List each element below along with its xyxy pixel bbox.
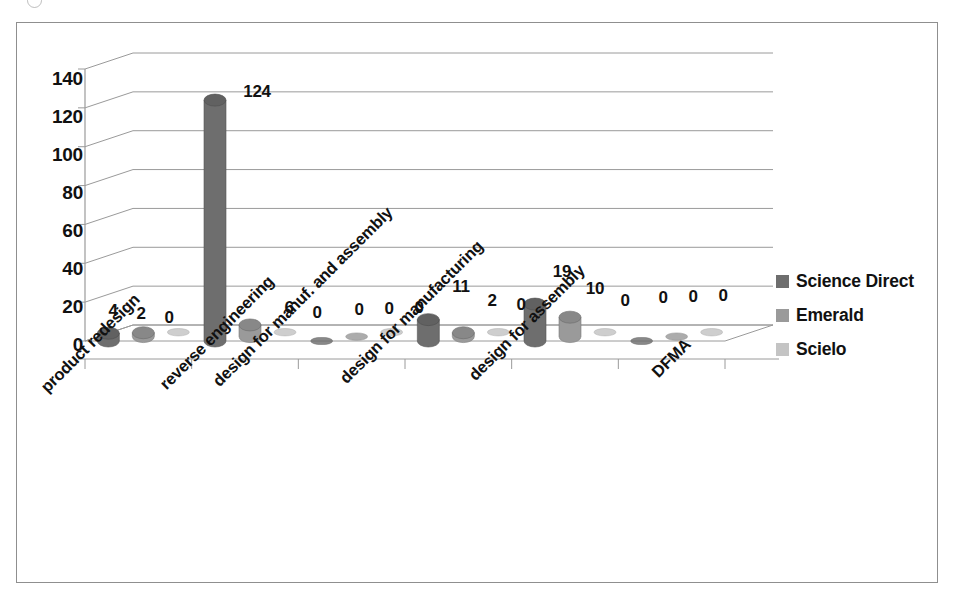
cylinder-top bbox=[452, 327, 474, 339]
cylinder-top bbox=[204, 94, 226, 106]
cylinder-body bbox=[204, 100, 226, 347]
value-label-g5-s0: 0 bbox=[646, 288, 680, 308]
bar-4-2[interactable] bbox=[594, 328, 616, 335]
legend-item-scielo[interactable]: Scielo bbox=[776, 332, 946, 366]
legend-label-scielo: Scielo bbox=[796, 339, 846, 360]
y-tick-20: 20 bbox=[31, 296, 83, 318]
y-tick-100: 100 bbox=[31, 144, 83, 166]
plot-area: 140 120 100 80 60 40 20 0 4 2 0 124 6 0 … bbox=[17, 23, 939, 584]
cylinder-zero bbox=[167, 328, 189, 335]
cylinder-zero bbox=[346, 333, 368, 340]
y-tick-40: 40 bbox=[31, 258, 83, 280]
cylinder-zero bbox=[701, 328, 723, 335]
bar-3-1[interactable] bbox=[452, 327, 474, 343]
value-label-g4-s2: 0 bbox=[608, 291, 642, 311]
y-tick-60: 60 bbox=[31, 220, 83, 242]
cylinder-top bbox=[559, 311, 581, 323]
gridline-60 bbox=[85, 208, 773, 224]
y-tick-80: 80 bbox=[31, 182, 83, 204]
legend-label-science-direct: Science Direct bbox=[796, 271, 914, 292]
gridline-100 bbox=[85, 131, 773, 147]
bar-0-1[interactable] bbox=[132, 327, 154, 343]
bar-2-1[interactable] bbox=[346, 333, 368, 340]
y-tick-120: 120 bbox=[31, 106, 83, 128]
value-label-g4-s1: 10 bbox=[578, 279, 612, 299]
value-label-g0-s2: 0 bbox=[152, 308, 186, 328]
legend-label-emerald: Emerald bbox=[796, 305, 864, 326]
gridline-40 bbox=[85, 247, 773, 263]
cylinder-top bbox=[132, 327, 154, 339]
legend-swatch-scielo bbox=[776, 343, 789, 356]
bar-2-0[interactable] bbox=[311, 337, 333, 344]
bar-0-2[interactable] bbox=[167, 328, 189, 335]
scan-artifact-glyph bbox=[27, 0, 42, 8]
y-tick-140: 140 bbox=[31, 68, 83, 90]
cylinder-zero bbox=[594, 328, 616, 335]
gridline-140 bbox=[85, 53, 773, 69]
gridline-120 bbox=[85, 92, 773, 108]
bar-1-0[interactable] bbox=[204, 94, 226, 347]
value-label-g5-s1: 0 bbox=[676, 287, 710, 307]
chart-frame: 140 120 100 80 60 40 20 0 4 2 0 124 6 0 … bbox=[16, 22, 938, 583]
bar-5-0[interactable] bbox=[631, 337, 653, 344]
bar-3-0[interactable] bbox=[417, 314, 439, 347]
bar-5-2[interactable] bbox=[701, 328, 723, 335]
cylinder-zero bbox=[311, 337, 333, 344]
gridline-80 bbox=[85, 170, 773, 186]
legend-swatch-emerald bbox=[776, 309, 789, 322]
chart-legend: Science Direct Emerald Scielo bbox=[776, 264, 946, 366]
value-label-g1-s0: 124 bbox=[240, 82, 274, 102]
legend-swatch-science-direct bbox=[776, 275, 789, 288]
legend-item-science-direct[interactable]: Science Direct bbox=[776, 264, 946, 298]
bar-4-1[interactable] bbox=[559, 311, 581, 342]
value-label-g5-s2: 0 bbox=[706, 286, 740, 306]
cylinder-zero bbox=[631, 337, 653, 344]
value-label-g2-s0: 0 bbox=[342, 300, 376, 320]
legend-item-emerald[interactable]: Emerald bbox=[776, 298, 946, 332]
